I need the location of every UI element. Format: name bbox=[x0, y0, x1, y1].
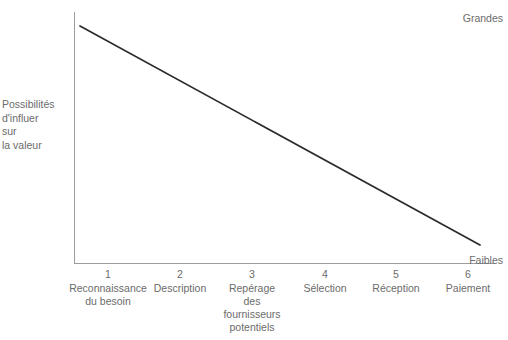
x-tick-6: 6 Paiement bbox=[420, 268, 508, 295]
y-axis-bottom-label: Faibles bbox=[437, 254, 503, 266]
x-tick-number-6: 6 bbox=[420, 268, 508, 281]
value-influence-line bbox=[80, 26, 480, 245]
x-tick-label-6-line-1: Paiement bbox=[420, 282, 508, 295]
y-axis-title: Possibilités d'influer sur la valeur bbox=[2, 98, 70, 152]
y-axis-title-line-2: d'influer bbox=[2, 112, 70, 126]
x-tick-label-3-line-2: des bbox=[204, 295, 300, 308]
x-tick-label-3-line-4: potentiels bbox=[204, 321, 300, 334]
x-tick-label-3-line-3: fournisseurs bbox=[204, 308, 300, 321]
y-axis-title-line-4: la valeur bbox=[2, 139, 70, 153]
x-tick-label-1-line-2: du besoin bbox=[60, 295, 156, 308]
y-axis-title-line-3: sur bbox=[2, 125, 70, 139]
y-axis-title-line-1: Possibilités bbox=[2, 98, 70, 112]
x-axis-labels: 1 Reconnaissance du besoin 2 Description… bbox=[0, 268, 503, 340]
x-tick-label-6: Paiement bbox=[420, 282, 508, 295]
y-axis-top-label: Grandes bbox=[437, 12, 503, 24]
